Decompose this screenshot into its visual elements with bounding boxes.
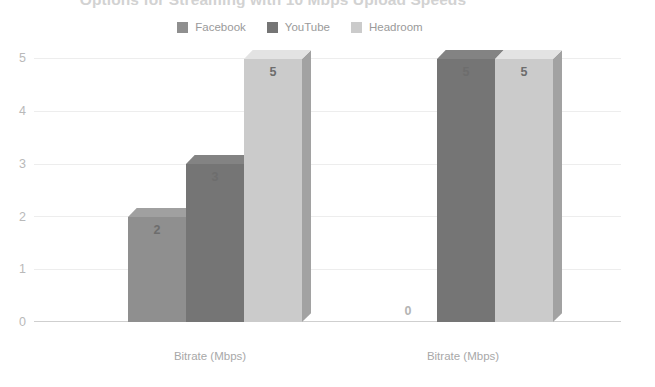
legend-label: YouTube — [285, 21, 330, 33]
bar-value-label: 5 — [495, 65, 553, 79]
y-axis-tick: 1 — [12, 262, 26, 276]
legend-swatch-icon — [267, 22, 278, 33]
legend-item-facebook[interactable]: Facebook — [177, 21, 246, 33]
bar-top-face — [437, 50, 504, 59]
x-axis-label-group-2: Bitrate (Mbps) — [408, 350, 518, 362]
bar-value-label: 0 — [379, 304, 437, 318]
plot-area: 2 3 5 0 5 — [34, 58, 621, 322]
bar-top-face — [495, 50, 562, 59]
y-axis-tick: 2 — [12, 210, 26, 224]
bar-front-face — [244, 59, 302, 322]
y-axis-tick: 4 — [12, 104, 26, 118]
bar-value-label: 5 — [244, 65, 302, 79]
bar-front-face — [437, 59, 495, 322]
bar-headroom-group-2[interactable]: 5 — [495, 59, 553, 322]
legend-item-headroom[interactable]: Headroom — [351, 21, 423, 33]
legend-label: Headroom — [369, 21, 423, 33]
bar-top-face — [128, 208, 195, 217]
bar-value-label: 3 — [186, 170, 244, 184]
bar-side-face — [553, 50, 562, 322]
y-axis-tick: 0 — [12, 315, 26, 329]
bar-value-label: 5 — [437, 65, 495, 79]
legend-item-youtube[interactable]: YouTube — [267, 21, 330, 33]
bar-headroom-group-1[interactable]: 5 — [244, 59, 302, 322]
bar-youtube-group-1[interactable]: 3 — [186, 164, 244, 322]
bar-facebook-group-1[interactable]: 2 — [128, 217, 186, 322]
legend-swatch-icon — [351, 22, 362, 33]
legend-label: Facebook — [195, 21, 246, 33]
bar-front-face — [186, 164, 244, 322]
bar-value-label: 2 — [128, 223, 186, 237]
bar-youtube-group-2[interactable]: 5 — [437, 59, 495, 322]
y-axis-tick: 5 — [12, 51, 26, 65]
bar-side-face — [302, 50, 311, 322]
chart-legend: Facebook YouTube Headroom — [0, 21, 600, 33]
legend-swatch-icon — [177, 22, 188, 33]
chart-title: Options for Streaming with 10 Mbps Uploa… — [0, 0, 546, 9]
bar-top-face — [244, 50, 311, 59]
bar-front-face — [495, 59, 553, 322]
y-axis-tick: 3 — [12, 157, 26, 171]
bar-top-face — [186, 155, 253, 164]
bar-chart: Options for Streaming with 10 Mbps Uploa… — [0, 0, 655, 387]
x-axis-label-group-1: Bitrate (Mbps) — [155, 350, 265, 362]
